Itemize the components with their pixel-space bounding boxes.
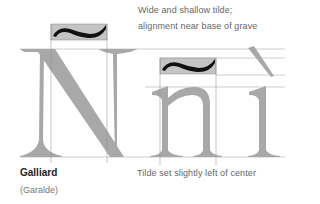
annotation-bottom: Tilde set slightly left of center	[137, 169, 256, 178]
typeface-name: Galliard	[20, 168, 57, 178]
capital-n-glyph	[20, 49, 138, 157]
annotation-top-line1: Wide and shallow tilde;	[138, 6, 232, 15]
dotless-i-glyph	[248, 86, 280, 157]
typeface-classification: (Garalde)	[20, 186, 58, 195]
grave-accent	[248, 46, 274, 77]
annotation-top-line2: alignment near base of grave	[138, 22, 257, 31]
lowercase-n-glyph	[150, 86, 222, 157]
